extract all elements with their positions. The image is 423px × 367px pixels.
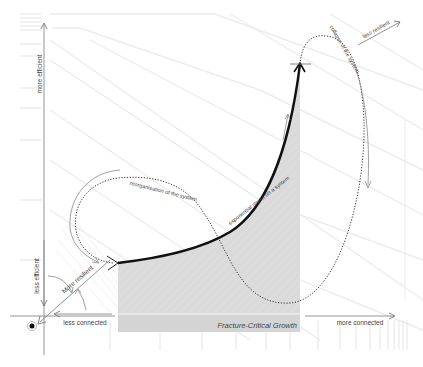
angle-arc-bottom <box>78 290 86 310</box>
y-axis-top-label: more efficient <box>36 54 43 93</box>
x-axis-right-label: more connected <box>337 319 384 326</box>
x-axis-left-label: less connected <box>63 319 107 326</box>
y-axis-ticks <box>20 14 42 260</box>
y-axis-bottom-label: less efficient <box>33 258 40 294</box>
collapse-label: collapse of the system <box>329 24 362 74</box>
fracture-critical-region <box>118 64 300 332</box>
reorganisation-guide-arc <box>70 170 120 262</box>
diagonal-axis <box>40 260 110 322</box>
collapse-guide-arc <box>356 70 369 185</box>
origin-marker-icon <box>28 322 37 331</box>
resilience-diagram: Fracture-Critical Growth more efficient … <box>0 0 423 367</box>
region-label: Fracture-Critical Growth <box>217 321 297 330</box>
reorganisation-label: reorganisation of the system <box>129 180 198 203</box>
